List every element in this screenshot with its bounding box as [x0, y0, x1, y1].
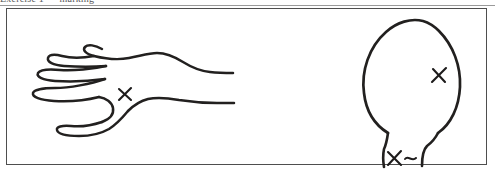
hand-palm-edge — [99, 97, 113, 122]
hand-upper-outline — [84, 45, 233, 73]
hand-x-mark — [119, 88, 131, 100]
hand-finger-3 — [38, 66, 106, 81]
hand-thumb — [57, 111, 128, 136]
neck-left-stroke — [383, 133, 388, 167]
figure-panel — [6, 8, 487, 165]
neck-right-stroke — [422, 133, 438, 166]
hand-drawing — [33, 45, 234, 136]
hand-lower-outline — [128, 98, 234, 111]
neck-tilde-mark — [405, 158, 416, 160]
figure-canvas — [7, 9, 488, 166]
head-outline — [363, 20, 460, 133]
clipped-caption: Exercise 1 — marking — [0, 0, 360, 4]
scan-edge-rule — [0, 5, 495, 6]
head-x-mark — [432, 68, 446, 82]
neck-x-mark — [388, 151, 401, 165]
head-drawing — [363, 20, 460, 167]
